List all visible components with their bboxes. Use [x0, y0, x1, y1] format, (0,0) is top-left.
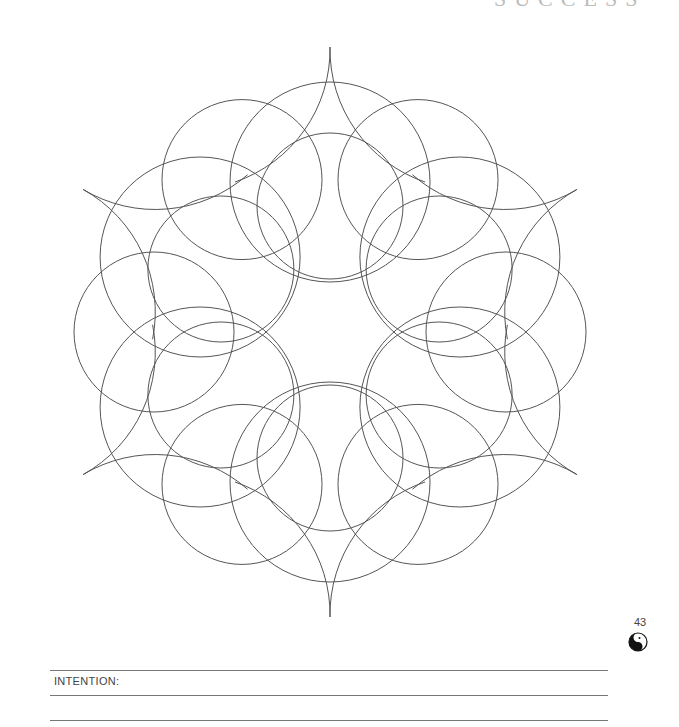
yin-yang-face-icon [628, 632, 648, 652]
intention-label: INTENTION: [54, 675, 119, 687]
page-number: 43 [634, 616, 646, 628]
rule-line-bottom[interactable] [50, 720, 608, 721]
rule-line-middle [50, 695, 608, 696]
mandala-coloring-drawing [0, 0, 679, 660]
rule-line-top [50, 670, 608, 671]
